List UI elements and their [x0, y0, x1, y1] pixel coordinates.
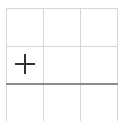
game-board — [0, 0, 125, 121]
board-cell-r0-c0[interactable] — [7, 9, 43, 46]
board-cell-r0-c2[interactable] — [81, 9, 117, 46]
board-cell-r1-c2[interactable] — [81, 47, 117, 83]
board-cell-r1-c1[interactable] — [44, 47, 80, 83]
board-cell-r1-c0[interactable] — [7, 47, 43, 83]
grid-line-vertical — [117, 8, 118, 121]
plus-icon — [15, 54, 35, 74]
board-cell-r0-c1[interactable] — [44, 9, 80, 46]
board-cell-r2-c1[interactable] — [44, 85, 80, 121]
board-cell-r2-c0[interactable] — [7, 85, 43, 121]
board-cell-r2-c2[interactable] — [81, 85, 117, 121]
